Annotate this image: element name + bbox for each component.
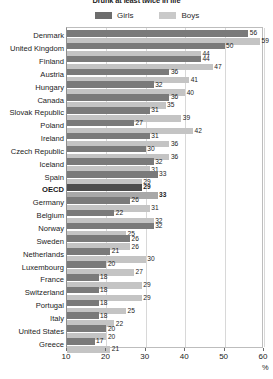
bar-girls [67, 325, 106, 332]
bar-value-girls: 29 [143, 183, 150, 190]
chart-row: France1829 [0, 271, 273, 284]
x-tick-mark [105, 348, 106, 351]
bar-value-girls: 18 [100, 299, 107, 306]
legend-item-girls[interactable]: Girls [95, 11, 133, 20]
bar-value-girls: 31 [151, 132, 158, 139]
bar-girls [67, 223, 154, 230]
x-tick-mark [263, 348, 264, 351]
bar-value-girls: 18 [100, 273, 107, 280]
chart-row: Ireland3136 [0, 130, 273, 143]
bar-girls [67, 300, 99, 307]
bar-girls [67, 69, 169, 76]
legend-swatch-boys-icon [159, 12, 176, 19]
chart-row: OECD2933 [0, 181, 273, 194]
x-tick-mark [145, 348, 146, 351]
chart-row: Slovak Republic3139 [0, 104, 273, 117]
bar-value-girls: 18 [100, 312, 107, 319]
x-tick-label: 50 [219, 352, 228, 361]
bar-girls [67, 312, 99, 319]
chart-row: Finland4447 [0, 53, 273, 66]
x-tick-label: 30 [140, 352, 149, 361]
chart-row: Italy1822 [0, 309, 273, 322]
legend-swatch-girls-icon [95, 12, 112, 19]
bar-value-girls: 32 [155, 222, 162, 229]
chart-row: Czech Republic3036 [0, 143, 273, 156]
bar-girls [67, 30, 248, 37]
chart-row: Iceland3231 [0, 155, 273, 168]
legend-label-boys: Boys [181, 11, 199, 20]
x-tick-label: 20 [101, 352, 110, 361]
chart-row: Austria3641 [0, 66, 273, 79]
bar-girls [67, 43, 225, 50]
x-tick-label: 40 [180, 352, 189, 361]
bar-girls [67, 133, 150, 140]
chart-row: Netherlands2130 [0, 245, 273, 258]
bar-girls [67, 56, 201, 63]
bar-girls [67, 197, 130, 204]
bar-value-girls: 20 [108, 325, 115, 332]
chart-row: Denmark5659 [0, 27, 273, 40]
bar-girls [67, 261, 106, 268]
x-tick-label: 60 [259, 352, 268, 361]
chart-row: United Kingdom5044 [0, 40, 273, 53]
bar-value-girls: 30 [147, 145, 154, 152]
chart-legend: Girls Boys [95, 9, 199, 22]
x-tick-mark [66, 348, 67, 351]
chart-rows: Denmark5659United Kingdom5044Finland4447… [0, 27, 273, 348]
chart-row: Switzerland1829 [0, 284, 273, 297]
bar-value-girls: 26 [132, 196, 139, 203]
bar-value-girls: 36 [171, 68, 178, 75]
bar-girls [67, 338, 95, 345]
bar-girls [67, 248, 110, 255]
bar-girls [67, 107, 150, 114]
bar-value-girls: 56 [250, 29, 257, 36]
chart-row: Spain3329 [0, 168, 273, 181]
x-tick-label: 10 [62, 352, 71, 361]
bar-girls [67, 120, 134, 127]
bar-value-girls: 31 [151, 106, 158, 113]
bar-girls [67, 184, 142, 191]
bar-girls [67, 274, 99, 281]
chart-row: Greece1721 [0, 335, 273, 348]
bar-value-girls: 50 [226, 42, 233, 49]
chart-row: Hungary3240 [0, 78, 273, 91]
bar-girls [67, 158, 154, 165]
bar-value-girls: 20 [108, 260, 115, 267]
bar-girls [67, 171, 158, 178]
chart-row: Germany2631 [0, 194, 273, 207]
chart-row: Canada3635 [0, 91, 273, 104]
bar-value-girls: 26 [132, 235, 139, 242]
chart-row: Poland2742 [0, 117, 273, 130]
bar-value-girls: 21 [112, 247, 119, 254]
x-tick-mark [184, 348, 185, 351]
chart-row: Norway3225 [0, 220, 273, 233]
bar-girls [67, 94, 169, 101]
x-tick-mark [224, 348, 225, 351]
bar-value-girls: 17 [96, 337, 103, 344]
bar-girls [67, 235, 130, 242]
x-axis-unit-label: % [262, 364, 269, 372]
chart-row: Belgium2232 [0, 207, 273, 220]
x-axis: 102030405060 [0, 348, 273, 368]
bar-girls [67, 210, 114, 217]
chart-title: Drunk at least twice in life [0, 0, 273, 5]
chart-page: Drunk at least twice in life Girls Boys … [0, 0, 273, 379]
bar-value-girls: 18 [100, 286, 107, 293]
bar-value-girls: 33 [159, 170, 166, 177]
bar-value-girls: 32 [155, 158, 162, 165]
chart-row: United States2020 [0, 322, 273, 335]
bar-girls [67, 287, 99, 294]
chart-row: Luxembourg2027 [0, 258, 273, 271]
bar-value-girls: 22 [116, 209, 123, 216]
bar-value-girls: 27 [135, 119, 142, 126]
bar-value-girls: 32 [155, 81, 162, 88]
bar-value-girls: 44 [202, 55, 209, 62]
chart-row: Portugal1825 [0, 297, 273, 310]
bar-girls [67, 146, 146, 153]
chart-row: Sweden2626 [0, 232, 273, 245]
legend-item-boys[interactable]: Boys [159, 11, 199, 20]
legend-label-girls: Girls [117, 11, 133, 20]
bar-girls [67, 81, 154, 88]
bar-value-girls: 36 [171, 93, 178, 100]
